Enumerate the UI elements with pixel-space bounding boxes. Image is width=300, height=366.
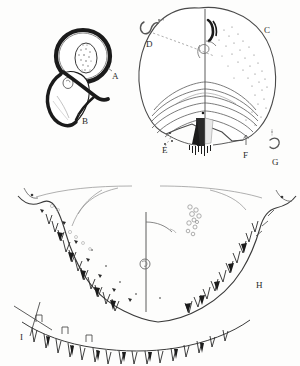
structure-a-ovum-outline xyxy=(75,43,97,73)
denticle-fills-right xyxy=(185,243,247,313)
label-c: C xyxy=(264,26,270,35)
seta-right-base xyxy=(281,196,284,199)
seta-right-top xyxy=(276,190,292,201)
label-f: F xyxy=(243,151,248,160)
seta-i-base xyxy=(31,194,34,197)
point-e-2 xyxy=(171,140,173,142)
denticle-band-fills xyxy=(46,336,204,362)
fleck-field xyxy=(40,209,161,302)
label-h: H xyxy=(256,281,263,290)
median-organ-circle xyxy=(140,259,150,269)
panel-h-i-artwork xyxy=(14,186,296,364)
label-b: B xyxy=(82,117,88,126)
denticle-fills-left xyxy=(57,232,116,310)
label-e: E xyxy=(162,146,168,155)
label-d: D xyxy=(146,40,153,49)
seta-g xyxy=(270,138,279,148)
label-a: A xyxy=(112,72,119,81)
point-e xyxy=(169,132,171,134)
seta-i-top xyxy=(24,188,38,198)
plate-artwork xyxy=(0,0,300,366)
lower-marginal-band xyxy=(22,320,250,351)
label-i: I xyxy=(20,333,23,342)
pore-cluster xyxy=(186,205,201,236)
label-g: G xyxy=(272,158,279,167)
posterior-margin-right xyxy=(213,140,243,145)
ventral-margin-right xyxy=(158,196,296,322)
illustration-plate: A B C D E F G H I xyxy=(0,0,300,366)
point-g xyxy=(271,131,273,133)
median-transverse-arm xyxy=(146,222,172,232)
denticle-series-right xyxy=(185,221,258,313)
panel-a-b-artwork xyxy=(47,30,112,126)
upper-arcs-lower-panel xyxy=(36,186,262,226)
panel-c-artwork xyxy=(139,7,279,156)
denticle-band-bottom xyxy=(32,328,228,364)
denticle-series-left xyxy=(46,214,119,311)
posterior-margin-left xyxy=(166,134,196,145)
